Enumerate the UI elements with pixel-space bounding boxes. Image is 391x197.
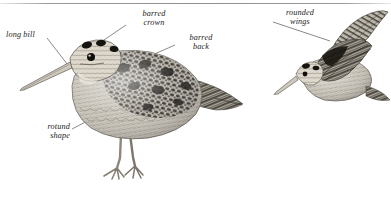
label-barred-back-line1: barred — [190, 33, 213, 42]
label-rotund-shape: rotund shape — [14, 122, 70, 141]
standing-woodcock-figure — [20, 39, 243, 179]
label-rotund-shape-line2: shape — [50, 131, 70, 140]
label-rounded-wings: rounded wings — [272, 8, 328, 27]
flying-bird-bill — [274, 76, 298, 95]
bill — [20, 62, 72, 91]
illustration-plate: long bill barred crown barred back rotun… — [0, 0, 391, 197]
label-long-bill-text: long bill — [6, 30, 35, 39]
standing-bird-legs — [104, 134, 143, 179]
label-barred-crown-line1: barred — [143, 9, 166, 18]
label-barred-back: barred back — [176, 33, 226, 52]
label-rotund-shape-line1: rotund — [48, 122, 70, 131]
woodcock-artwork — [0, 0, 391, 197]
label-barred-crown: barred crown — [128, 9, 180, 28]
label-barred-back-line2: back — [193, 42, 209, 51]
label-barred-crown-line2: crown — [144, 18, 165, 27]
flying-bird-eye — [303, 72, 308, 77]
label-rounded-wings-line2: wings — [290, 17, 310, 26]
label-rounded-wings-line1: rounded — [286, 8, 314, 17]
eye — [87, 53, 95, 61]
label-long-bill: long bill — [6, 30, 35, 39]
